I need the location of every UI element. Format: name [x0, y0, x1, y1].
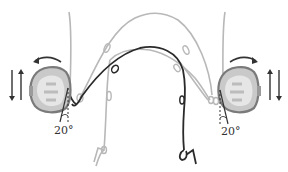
black-foot — [180, 150, 196, 164]
outer-gray-arch-wire — [80, 13, 212, 98]
black-arch-wire — [72, 47, 185, 150]
right-angle-label: 20° — [221, 126, 241, 137]
left-angle-label: 20° — [54, 125, 74, 136]
inner-gray-arch-wire — [110, 49, 210, 100]
archwire-diagram — [0, 0, 288, 172]
right-rotation-arrow-icon — [230, 57, 258, 64]
gray-loop-descending — [107, 92, 111, 101]
right-molar-tooth — [218, 67, 261, 112]
black-loop-right — [180, 96, 184, 104]
diagram-canvas: 20° 20° — [0, 0, 288, 172]
left-rotation-arrow-icon — [33, 57, 61, 64]
right-gray-loop-b — [214, 98, 219, 105]
outer-arch-loop-right — [182, 45, 190, 55]
right-vertical-arrows-icon — [267, 69, 282, 101]
black-loop-upper — [110, 64, 120, 74]
left-vertical-arrows-icon — [9, 69, 24, 101]
